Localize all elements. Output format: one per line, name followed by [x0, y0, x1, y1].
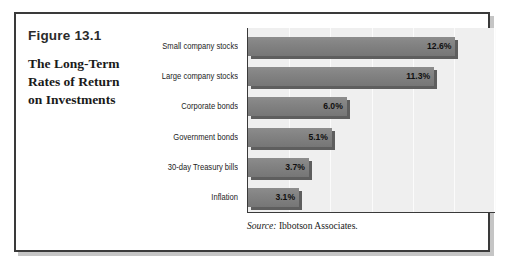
- bar-series: 12.6%11.3%6.0%5.1%3.7%3.1%: [248, 28, 494, 212]
- bar-shadow: [251, 86, 437, 89]
- bar-value-label: 3.7%: [275, 158, 305, 177]
- category-label: Large company stocks: [141, 67, 238, 86]
- bar-shadow: [251, 147, 335, 150]
- plot-panel: 12.6%11.3%6.0%5.1%3.7%3.1%: [247, 28, 494, 212]
- gridline: [495, 28, 496, 212]
- bar-value-label: 6.0%: [313, 97, 343, 116]
- bar-shadow: [299, 191, 302, 210]
- source-text: Ibbotson Associates.: [276, 220, 357, 231]
- chart-area: Small company stocksLarge company stocks…: [134, 28, 480, 242]
- bar-shadow: [251, 116, 350, 119]
- category-label: 30-day Treasury bills: [141, 158, 238, 177]
- bar-shadow: [309, 161, 312, 180]
- category-label: Corporate bonds: [141, 97, 238, 116]
- bar-value-label: 3.1%: [265, 188, 295, 207]
- bar-shadow: [332, 131, 335, 150]
- bar-shadow: [251, 56, 458, 59]
- source-label: Source:: [247, 220, 276, 231]
- figure-title-line-1: The Long-Term: [28, 55, 146, 73]
- bar-row: 11.3%: [248, 67, 438, 86]
- bar-value-label: 5.1%: [298, 128, 328, 147]
- figure-title-line-3: on Investments: [28, 91, 146, 109]
- bar-row: 12.6%: [248, 37, 459, 56]
- bar-value-label: 11.3%: [400, 67, 430, 86]
- figure-title: The Long-Term Rates of Return on Investm…: [28, 55, 146, 110]
- figure-number: Figure 13.1: [28, 28, 146, 43]
- bar-row: 3.7%: [248, 158, 313, 177]
- figure-box: Figure 13.1 The Long-Term Rates of Retur…: [14, 12, 490, 252]
- category-label: Government bonds: [141, 128, 238, 147]
- category-label: Inflation: [141, 188, 238, 207]
- category-label: Small company stocks: [141, 37, 238, 56]
- figure-caption-block: Figure 13.1 The Long-Term Rates of Retur…: [28, 28, 146, 110]
- bar-value-label: 12.6%: [421, 37, 451, 56]
- bar-row: 3.1%: [248, 188, 303, 207]
- x-axis-line: [247, 212, 495, 213]
- category-axis-labels: Small company stocksLarge company stocks…: [134, 28, 244, 212]
- bar-shadow: [251, 207, 302, 210]
- figure-title-line-2: Rates of Return: [28, 73, 146, 91]
- bar-row: 5.1%: [248, 128, 336, 147]
- bar-shadow: [434, 70, 437, 89]
- bar-row: 6.0%: [248, 97, 351, 116]
- source-note: Source: Ibbotson Associates.: [247, 220, 358, 231]
- bar-shadow: [347, 100, 350, 119]
- bar-shadow: [455, 40, 458, 59]
- bar-shadow: [251, 177, 312, 180]
- plot-wrapper: Small company stocksLarge company stocks…: [134, 28, 480, 224]
